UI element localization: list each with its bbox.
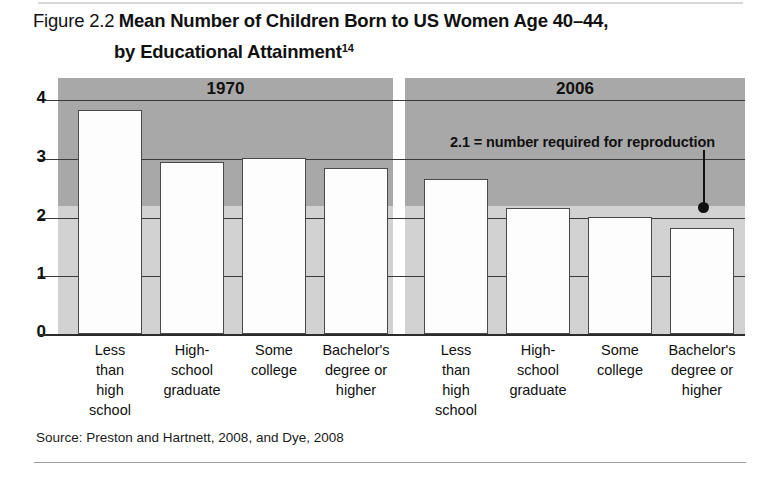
bar-2006-high-school-graduate[interactable] [506,208,570,334]
catlabel-1970-some-college: Some college [234,340,314,380]
x-axis-baseline [38,334,745,336]
bottom-divider [34,462,746,463]
annotation-leader-line [703,150,705,206]
catlabel-2006-less-than-high-school: Less than high school [416,340,496,420]
bar-1970-some-college[interactable] [242,158,306,334]
ytick-1: 1 [24,264,46,284]
catlabel-1970-high-school-graduate: High- school graduate [152,340,232,400]
caption-line-2: by Educational Attainment14 [33,35,743,66]
ytick-4: 4 [24,88,46,108]
gridline-3 [38,159,745,160]
bar-2006-less-than-high-school[interactable] [424,179,488,334]
bar-2006-bachelors-or-higher[interactable] [670,228,734,334]
chart-plot-area: 1970 2006 4 3 2 1 0 2.1 = number require… [0,78,778,428]
catlabel-2006-some-college: Some college [580,340,660,380]
ytick-0: 0 [24,322,46,342]
footnote-marker: 14 [342,42,354,54]
annotation-dot-icon [698,202,709,213]
catlabel-2006-bachelors-or-higher: Bachelor's degree or higher [657,340,747,400]
figure-caption: Figure 2.2 Mean Number of Children Born … [33,8,743,66]
catlabel-1970-bachelors-or-higher: Bachelor's degree or higher [311,340,401,400]
top-divider [38,2,743,4]
figure-title-line-1: Mean Number of Children Born to US Women… [119,10,608,31]
reproduction-threshold-annotation: 2.1 = number required for reproduction [450,134,715,150]
catlabel-2006-high-school-graduate: High- school graduate [498,340,578,400]
gridline-4 [38,100,745,101]
figure-title-line-2: by Educational Attainment [114,41,342,62]
panel-1970-year-label: 1970 [58,78,393,100]
ytick-3: 3 [24,147,46,167]
bar-1970-high-school-graduate[interactable] [160,162,224,334]
bar-1970-bachelors-or-higher[interactable] [324,168,388,334]
caption-line-1: Figure 2.2 Mean Number of Children Born … [33,8,743,35]
ytick-2: 2 [24,206,46,226]
source-note: Source: Preston and Hartnett, 2008, and … [36,430,344,445]
bar-1970-less-than-high-school[interactable] [78,110,142,334]
bar-2006-some-college[interactable] [588,217,652,334]
figure-label: Figure 2.2 [33,10,114,31]
catlabel-1970-less-than-high-school: Less than high school [70,340,150,420]
panel-2006-year-label: 2006 [405,78,745,100]
